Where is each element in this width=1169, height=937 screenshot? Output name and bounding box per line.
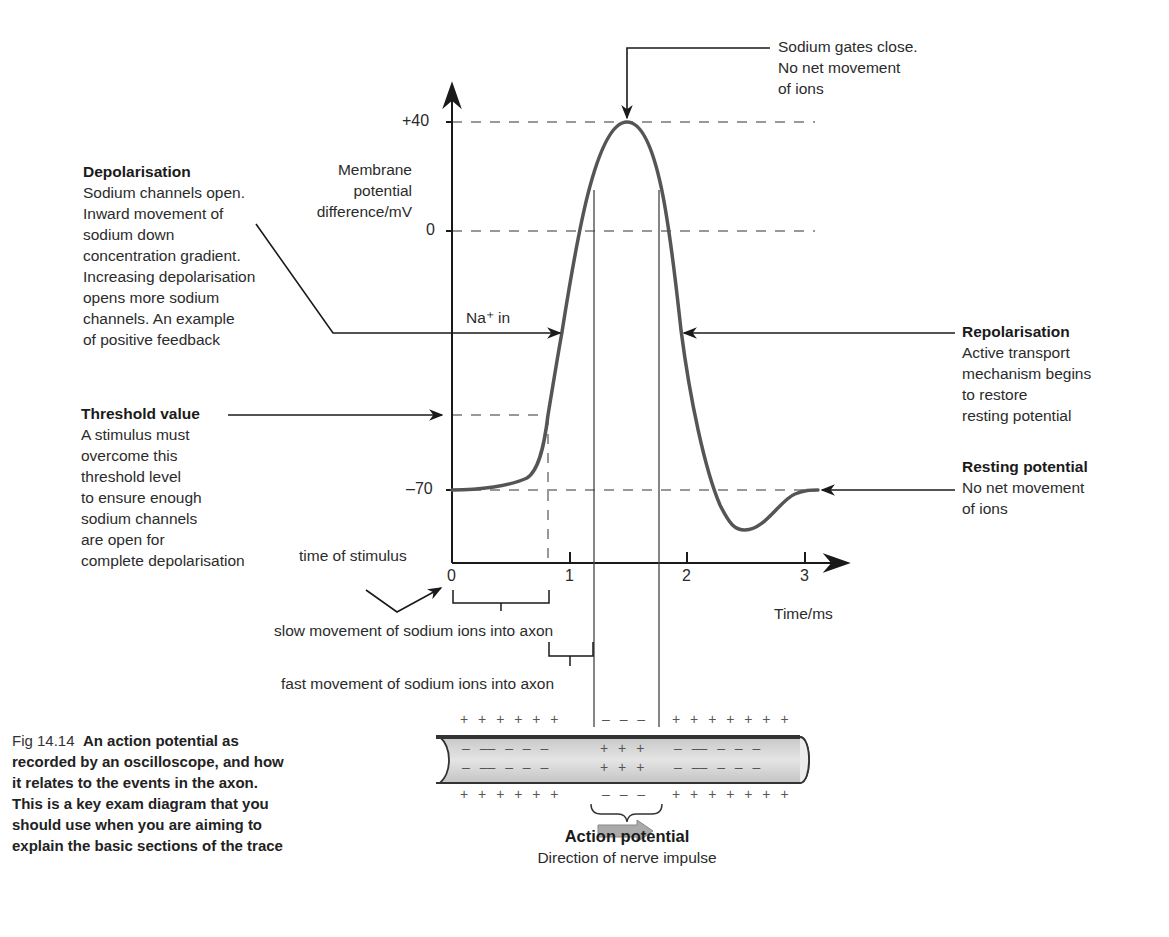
outside-bottom-left-charges: + + + + + + bbox=[460, 786, 559, 802]
fast-movement-bracket bbox=[549, 642, 593, 656]
resting-potential-title: Resting potential bbox=[962, 456, 1088, 477]
inside-row2-left-charges: – –– – – – bbox=[462, 759, 548, 775]
caption-line: should use when you are aiming to bbox=[12, 814, 284, 835]
annotation-line: of ions bbox=[962, 498, 1088, 519]
outside-bottom-right-charges: + + + + + + + bbox=[672, 786, 789, 802]
time-of-stimulus-label: time of stimulus bbox=[299, 545, 407, 566]
annotation-line: A stimulus must bbox=[81, 424, 245, 445]
figure-caption: Fig 14.14 An action potential as recorde… bbox=[12, 730, 284, 856]
axon-end-cap bbox=[800, 737, 809, 783]
inside-row1-right-charges: – –– – – – bbox=[674, 740, 760, 756]
y-axis-label-line: Membrane bbox=[290, 159, 412, 180]
action-potential-brace bbox=[591, 804, 662, 822]
axon-alignment-lines bbox=[594, 190, 659, 727]
y-tick-label-minus70: –70 bbox=[406, 480, 433, 498]
depolarisation-arrow bbox=[256, 224, 560, 333]
annotation-line: opens more sodium bbox=[83, 287, 255, 308]
outside-top-left-charges: + + + + + + bbox=[460, 711, 559, 727]
depolarisation-title: Depolarisation bbox=[83, 161, 255, 182]
x-axis-label: Time/ms bbox=[774, 603, 833, 624]
outside-top-right-charges: + + + + + + + bbox=[672, 711, 789, 727]
inside-row1-middle-charges: + + + bbox=[600, 740, 644, 756]
time-of-stimulus-arrow bbox=[366, 588, 441, 612]
resting-potential-annotation: Resting potential No net movement of ion… bbox=[962, 456, 1088, 519]
figure-number: Fig 14.14 bbox=[12, 732, 75, 749]
annotation-line: complete depolarisation bbox=[81, 550, 245, 571]
inside-row1-left-charges: – –– – – – bbox=[462, 740, 548, 756]
x-tick-label-1: 1 bbox=[565, 567, 574, 585]
caption-line: recorded by an oscilloscope, and how bbox=[12, 751, 284, 772]
outside-bottom-middle-charges: – – – bbox=[602, 786, 645, 802]
annotation-line: No net movement bbox=[778, 57, 918, 78]
annotation-line: sodium channels bbox=[81, 508, 245, 529]
direction-label-text: Direction of nerve impulse bbox=[537, 849, 716, 866]
annotation-line: resting potential bbox=[962, 405, 1091, 426]
annotation-line: threshold level bbox=[81, 466, 245, 487]
annotation-line: of ions bbox=[778, 78, 918, 99]
repolarisation-annotation: Repolarisation Active transport mechanis… bbox=[962, 321, 1091, 426]
y-axis-label-line: potential bbox=[290, 180, 412, 201]
x-tick-label-2: 2 bbox=[682, 567, 691, 585]
slow-movement-bracket bbox=[453, 590, 549, 603]
fast-movement-label: fast movement of sodium ions into axon bbox=[281, 673, 554, 694]
annotation-line: overcome this bbox=[81, 445, 245, 466]
depolarisation-annotation: Depolarisation Sodium channels open. Inw… bbox=[83, 161, 255, 350]
annotation-line: to ensure enough bbox=[81, 487, 245, 508]
threshold-annotation: Threshold value A stimulus must overcome… bbox=[81, 403, 245, 571]
annotation-line: concentration gradient. bbox=[83, 245, 255, 266]
action-potential-label-text: Action potential bbox=[565, 827, 690, 845]
y-tick-label-plus40: +40 bbox=[402, 112, 429, 130]
caption-line: explain the basic sections of the trace bbox=[12, 835, 284, 856]
direction-label: Direction of nerve impulse bbox=[527, 847, 727, 868]
outside-top-middle-charges: – – – bbox=[602, 711, 645, 727]
x-tick-label-0: 0 bbox=[447, 567, 456, 585]
action-potential-label: Action potential bbox=[527, 826, 727, 847]
reference-gridlines bbox=[452, 122, 815, 563]
annotation-line: Increasing depolarisation bbox=[83, 266, 255, 287]
annotation-line: Inward movement of bbox=[83, 203, 255, 224]
annotation-line: Active transport bbox=[962, 342, 1091, 363]
y-axis-label: Membrane potential difference/mV bbox=[290, 159, 412, 222]
inside-row2-middle-charges: + + + bbox=[600, 759, 644, 775]
annotation-line: Sodium channels open. bbox=[83, 182, 255, 203]
slow-movement-label: slow movement of sodium ions into axon bbox=[274, 620, 553, 641]
na-in-label: Na⁺ in bbox=[466, 307, 510, 328]
y-axis-label-line: difference/mV bbox=[290, 201, 412, 222]
sodium-gates-annotation: Sodium gates close. No net movement of i… bbox=[778, 36, 918, 99]
sodium-gates-arrow bbox=[627, 48, 770, 118]
annotation-line: channels. An example bbox=[83, 308, 255, 329]
inside-row2-right-charges: – –– – – – bbox=[674, 759, 760, 775]
caption-line: This is a key exam diagram that you bbox=[12, 793, 284, 814]
annotation-arrows bbox=[228, 48, 955, 612]
caption-line: An action potential as bbox=[83, 732, 239, 749]
annotation-line: mechanism begins bbox=[962, 363, 1091, 384]
threshold-title: Threshold value bbox=[81, 403, 245, 424]
x-tick-label-3: 3 bbox=[800, 567, 809, 585]
annotation-line: of positive feedback bbox=[83, 329, 255, 350]
annotation-line: to restore bbox=[962, 384, 1091, 405]
y-tick-label-zero: 0 bbox=[426, 221, 435, 239]
annotation-line: sodium down bbox=[83, 224, 255, 245]
caption-line: it relates to the events in the axon. bbox=[12, 772, 284, 793]
annotation-line: are open for bbox=[81, 529, 245, 550]
annotation-line: No net movement bbox=[962, 477, 1088, 498]
annotation-line: Sodium gates close. bbox=[778, 36, 918, 57]
repolarisation-title: Repolarisation bbox=[962, 321, 1091, 342]
